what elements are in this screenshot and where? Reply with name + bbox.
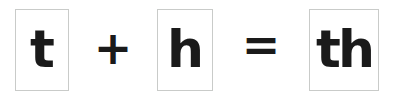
equals-icon: =	[242, 22, 281, 68]
phonics-equation-diagram: t + h = th	[0, 0, 394, 100]
plus-operator: +	[69, 27, 157, 73]
letter-glyph-h: h	[167, 23, 203, 75]
plus-icon: +	[94, 25, 133, 71]
equals-operator: =	[213, 27, 309, 73]
equation-row: t + h = th	[0, 0, 394, 100]
letter-card-t: t	[15, 9, 69, 91]
letter-glyph-th: th	[316, 23, 372, 75]
letter-glyph-t: t	[30, 23, 54, 75]
letter-card-h: h	[157, 9, 213, 91]
letter-card-th: th	[309, 9, 379, 91]
